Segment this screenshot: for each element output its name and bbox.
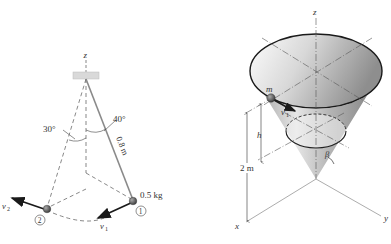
height-label-h: h bbox=[257, 130, 262, 140]
z-axis-label-right: z bbox=[312, 7, 317, 17]
angle-label-30: 30° bbox=[43, 124, 56, 134]
x-axis-label: x bbox=[234, 221, 239, 231]
y-axis-label: y bbox=[383, 213, 388, 223]
total-height-label: 2 m bbox=[240, 163, 254, 173]
pendulum-figure: z 30° 40° 0.8 m 0.5 kg bbox=[2, 50, 163, 232]
position-marker-1: 1 bbox=[136, 206, 146, 216]
beta-label: β bbox=[324, 149, 330, 159]
cord-position-2 bbox=[47, 79, 86, 208]
circular-path-arc bbox=[53, 213, 104, 221]
cone-figure: x y z h 2 m v 1 bbox=[234, 7, 388, 231]
position-marker-2: 2 bbox=[35, 215, 45, 225]
angle-leader-30 bbox=[63, 130, 75, 139]
diagram-canvas: z 30° 40° 0.8 m 0.5 kg bbox=[0, 0, 391, 244]
mass-m-label: m bbox=[266, 84, 273, 94]
svg-text:1: 1 bbox=[286, 112, 289, 118]
mass-label: 0.5 kg bbox=[140, 190, 163, 200]
angle-arc-40 bbox=[86, 129, 106, 132]
angle-arc-30 bbox=[69, 138, 86, 141]
svg-text:v: v bbox=[2, 201, 6, 211]
radius-line-2 bbox=[47, 189, 86, 208]
svg-text:v: v bbox=[100, 221, 104, 231]
svg-text:1: 1 bbox=[105, 226, 108, 232]
svg-text:2: 2 bbox=[38, 216, 42, 225]
mass-position-2[interactable] bbox=[43, 205, 51, 213]
cord-length-label: 0.8 m bbox=[114, 135, 131, 157]
ceiling-support bbox=[73, 72, 99, 79]
y-axis bbox=[316, 179, 381, 216]
z-axis-label-left: z bbox=[83, 50, 88, 60]
angle-label-40: 40° bbox=[113, 114, 126, 124]
velocity-arrow-1[interactable] bbox=[98, 202, 133, 218]
mass-position-1[interactable] bbox=[129, 197, 137, 205]
svg-text:v: v bbox=[281, 107, 285, 117]
velocity-label-2: v 2 bbox=[2, 201, 10, 212]
velocity-arrow-2[interactable] bbox=[12, 198, 47, 210]
radius-line-1 bbox=[86, 173, 133, 200]
x-axis bbox=[246, 179, 316, 222]
svg-text:2: 2 bbox=[7, 206, 10, 212]
velocity-label-1: v 1 bbox=[100, 221, 108, 232]
svg-text:1: 1 bbox=[139, 207, 143, 216]
mass-m[interactable] bbox=[267, 94, 275, 102]
